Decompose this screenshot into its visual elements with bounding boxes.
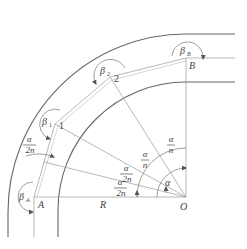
label-A: A [37, 199, 45, 210]
svg-text:β: β [179, 45, 185, 56]
diagram-canvas: A B O 1 2 R β A β 1 β 2 β B α α 2n α 2n … [0, 0, 247, 249]
svg-text:n: n [169, 145, 174, 155]
svg-text:α: α [124, 163, 129, 173]
svg-text:2n: 2n [123, 174, 133, 184]
svg-text:2n: 2n [26, 145, 36, 155]
svg-text:α: α [143, 149, 148, 159]
beta-1-label: β 1 [41, 116, 52, 128]
svg-text:β: β [41, 116, 47, 127]
svg-text:α: α [169, 134, 174, 144]
fraction-alpha-n-2: α n [167, 134, 175, 155]
beta-A-label: β A [18, 191, 30, 203]
svg-text:α: α [27, 134, 32, 144]
alpha-label: α [165, 177, 171, 188]
radial-lines [34, 58, 186, 197]
svg-text:β: β [18, 191, 24, 202]
svg-text:1: 1 [49, 122, 52, 128]
polygon-path [34, 58, 186, 197]
svg-text:α: α [118, 177, 123, 187]
label-R: R [99, 199, 106, 210]
svg-text:n: n [143, 160, 148, 170]
svg-text:A: A [25, 197, 30, 203]
svg-text:2: 2 [107, 71, 110, 77]
label-O: O [180, 201, 187, 212]
label-B: B [189, 60, 195, 71]
label-2: 2 [114, 73, 119, 84]
beta-2-label: β 2 [99, 65, 110, 77]
label-1: 1 [59, 120, 64, 131]
svg-text:β: β [99, 65, 105, 76]
bend-diagram: A B O 1 2 R β A β 1 β 2 β B α α 2n α 2n … [0, 0, 247, 249]
fraction-alpha-n-1: α n [141, 149, 149, 170]
svg-text:2n: 2n [117, 188, 127, 198]
beta-B-label: β B [179, 45, 191, 57]
svg-text:B: B [187, 51, 191, 57]
